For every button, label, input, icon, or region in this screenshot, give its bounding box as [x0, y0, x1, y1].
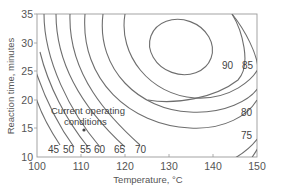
y-tick-20: 20	[21, 94, 33, 106]
contour-85	[124, 14, 260, 98]
x-tick-100: 100	[28, 160, 46, 172]
contour-65	[56, 14, 125, 147]
x-axis-label: Temperature, °C	[113, 174, 182, 185]
x-tick-120: 120	[116, 160, 134, 172]
contour-label-75: 75	[241, 130, 253, 141]
contour-plot: 45 50 55 60 65 70 75 80 85 90 Current op…	[0, 0, 296, 190]
contour-70-lower	[235, 138, 258, 158]
current-conditions-point	[82, 128, 85, 131]
y-axis-label: Reaction time, minutes	[5, 37, 16, 134]
contour-80	[102, 14, 258, 112]
y-tick-15: 15	[21, 122, 33, 134]
x-tick-150: 150	[248, 160, 266, 172]
x-tick-140: 140	[204, 160, 222, 172]
contour-label-70: 70	[135, 144, 147, 155]
contour-label-65: 65	[114, 144, 126, 155]
x-tick-110: 110	[73, 160, 90, 172]
contour-label-80: 80	[241, 107, 253, 118]
annotation-line1: Current operating	[51, 105, 125, 116]
contour-label-60: 60	[94, 144, 106, 155]
y-tick-35: 35	[21, 8, 33, 20]
y-axis: 10 15 20 25 30 35	[21, 8, 37, 163]
x-tick-130: 130	[160, 160, 178, 172]
contour-label-85: 85	[242, 60, 254, 71]
contour-label-55: 55	[80, 144, 92, 155]
y-tick-30: 30	[21, 37, 33, 49]
plot-frame	[37, 14, 257, 157]
contour-label-45: 45	[48, 144, 60, 155]
contour-label-50: 50	[63, 144, 75, 155]
y-tick-25: 25	[21, 65, 33, 77]
annotation-line2: conditions	[64, 116, 107, 127]
contour-90	[142, 11, 221, 84]
contour-label-90: 90	[222, 60, 234, 71]
